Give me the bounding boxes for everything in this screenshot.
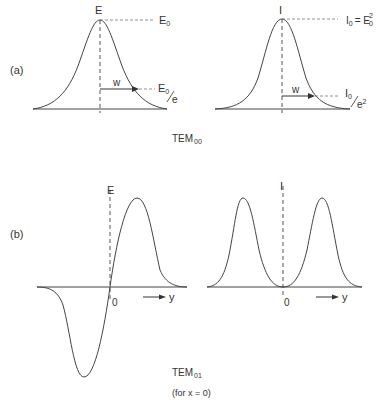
panel-b-label: (b) [10,228,23,240]
panel-a-intensity-plot: I I0= E20 w I0 e2 [215,4,373,113]
axis-var-y: y [169,291,175,303]
w-label: w [112,77,121,88]
arrow-head-icon [332,295,339,300]
panel-b-intensity-plot: I 0 y [207,180,362,308]
axis-var-y: y [342,291,348,303]
i0-over-e2-den: e2 [357,98,367,110]
origin-label: 0 [112,297,118,308]
origin-label: 0 [284,297,290,308]
two-lobe-intensity-curve [207,198,362,287]
caption-note: (for x = 0) [172,388,211,398]
peak-label: E0 [159,14,170,27]
peak-label-i0-eq-e0sq: I0= E20 [346,12,373,27]
axis-label-e: E [107,184,114,196]
axis-label-i: I [280,180,283,192]
e0-over-e-num: E0 [158,82,169,95]
e0-over-e-den: e [172,94,178,105]
panel-a-label: (a) [10,64,23,76]
panel-a-field-plot: E E0 w E0 e [33,4,178,113]
axis-label-e: E [95,4,102,16]
axis-label-i: I [279,4,282,16]
caption-tem00: TEM00 [172,133,202,145]
panel-b-field-plot: E 0 y [37,184,187,377]
arrow-head-icon [159,295,166,300]
w-label: w [291,84,300,95]
tem-mode-diagram: (a) E E0 w E0 e I I0= E20 w I0 e2 TEM00 … [0,0,385,406]
caption-tem01: TEM01 [172,367,202,379]
i0-over-e2-num: I0 [345,87,352,100]
